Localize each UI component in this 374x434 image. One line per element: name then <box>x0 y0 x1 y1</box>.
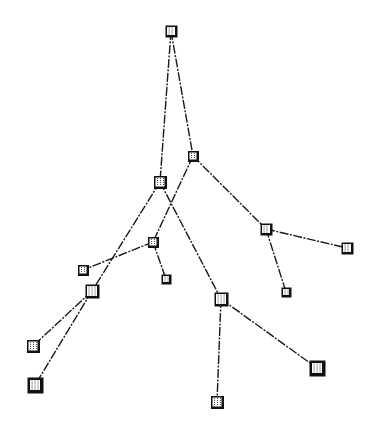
edge-K-N <box>221 299 317 368</box>
edge-B-D <box>153 156 193 242</box>
node-B[interactable] <box>188 151 199 162</box>
node-L[interactable] <box>27 340 40 353</box>
edge-A-B <box>171 31 193 156</box>
edge-layer <box>33 31 347 402</box>
node-C[interactable] <box>154 176 167 189</box>
node-M[interactable] <box>28 378 44 394</box>
edge-J-M <box>35 291 92 385</box>
tree-diagram <box>0 0 374 434</box>
node-layer <box>27 26 354 410</box>
node-F[interactable] <box>342 243 354 255</box>
edge-E-G <box>266 229 286 292</box>
node-A[interactable] <box>166 26 178 38</box>
edge-C-J <box>92 182 160 291</box>
edge-E-F <box>266 229 347 248</box>
node-D[interactable] <box>148 237 159 248</box>
edge-J-L <box>33 291 92 346</box>
node-K[interactable] <box>215 293 229 307</box>
node-N[interactable] <box>310 361 326 377</box>
node-I[interactable] <box>162 275 172 285</box>
edge-K-O <box>217 299 221 402</box>
node-G[interactable] <box>282 288 292 298</box>
node-J[interactable] <box>86 285 100 299</box>
node-H[interactable] <box>78 265 89 276</box>
edge-A-C <box>160 31 171 182</box>
edge-D-H <box>83 242 153 270</box>
node-O[interactable] <box>211 396 224 409</box>
edge-B-E <box>193 156 266 229</box>
node-E[interactable] <box>261 224 273 236</box>
